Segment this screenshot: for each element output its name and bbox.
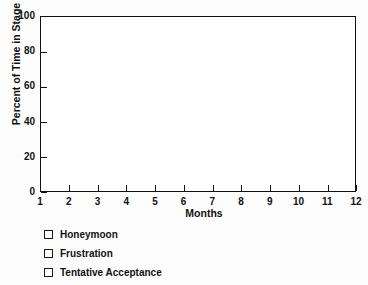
chart-figure: Percent of Time in Stage 020406080100 12… [0,0,368,285]
x-axis-tick-label: 12 [343,196,368,207]
legend-item-label: Tentative Acceptance [60,267,162,278]
x-axis-title-text: Months [185,207,222,219]
x-axis-title: Months [0,207,368,219]
y-axis-tick-label: 60 [8,80,35,91]
legend-item[interactable]: Tentative Acceptance [44,264,344,281]
x-axis-tick [184,185,185,191]
open-square-marker-icon [44,249,53,258]
legend-item-label: Frustration [60,248,113,259]
open-square-marker-icon [44,268,53,277]
x-axis-tick [270,185,271,191]
plot-area [41,17,355,191]
x-axis-tick [213,185,214,191]
x-axis-tick-label: 6 [171,196,197,207]
legend-item[interactable]: Frustration [44,245,344,262]
y-axis-tick [41,16,47,17]
x-axis-tick [356,185,357,191]
open-square-marker-icon [44,230,53,239]
x-axis-tick [328,185,329,191]
x-axis-tick-label: 11 [314,196,340,207]
y-axis-tick-label: 80 [8,45,35,56]
y-axis-tick [41,52,47,53]
x-axis-tick [241,185,242,191]
y-axis-tick [41,192,47,193]
x-axis-tick-label: 2 [56,196,82,207]
y-axis-tick [41,87,47,88]
y-axis-tick-label: 40 [8,116,35,127]
x-axis-tick-label: 7 [199,196,225,207]
x-axis-tick [155,185,156,191]
x-axis-tick [98,185,99,191]
y-axis-tick-label: 20 [8,151,35,162]
x-axis-tick-label: 3 [84,196,110,207]
legend-item[interactable]: Honeymoon [44,226,344,243]
x-axis-tick [69,185,70,191]
x-axis-tick-label: 4 [113,196,139,207]
y-axis-tick [41,122,47,123]
x-axis-tick [40,185,41,191]
x-axis-tick [299,185,300,191]
legend-item-label: Honeymoon [60,229,118,240]
x-axis-tick-label: 9 [257,196,283,207]
plot-frame [40,16,356,192]
x-axis-tick-label: 10 [286,196,312,207]
x-axis-tick-label: 5 [142,196,168,207]
y-axis-tick [41,157,47,158]
chart-legend: Honeymoon Frustration Tentative Acceptan… [44,226,344,283]
x-axis-tick-label: 8 [228,196,254,207]
x-axis-tick [126,185,127,191]
x-axis-tick-label: 1 [27,196,53,207]
y-axis-tick-label: 100 [8,10,35,21]
